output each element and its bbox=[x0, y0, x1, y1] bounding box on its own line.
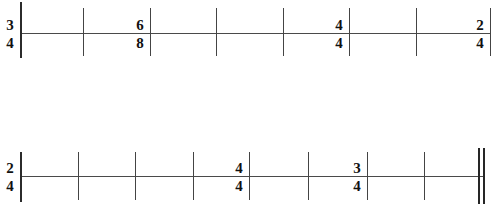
lower-barline-6 bbox=[367, 152, 368, 200]
time-signature-denominator: 4 bbox=[2, 179, 18, 194]
final-barline-thin bbox=[478, 148, 480, 204]
rhythm-worksheet-canvas: 3 4 6 8 4 4 2 4 2 4 bbox=[0, 0, 496, 215]
time-signature-numerator: 3 bbox=[349, 161, 365, 176]
lower-barline-open bbox=[20, 152, 22, 202]
lower-barline-5 bbox=[308, 152, 309, 200]
lower-barline-7 bbox=[424, 152, 425, 200]
lower-barline-2 bbox=[135, 152, 136, 200]
lower-barline-3 bbox=[193, 152, 194, 200]
lower-staff: 2 4 4 4 3 4 bbox=[0, 0, 496, 215]
time-signature-denominator: 4 bbox=[231, 179, 247, 194]
time-signature-lower-3: 3 4 bbox=[349, 161, 365, 194]
final-barline-thick bbox=[483, 148, 485, 204]
lower-staff-line bbox=[20, 176, 484, 177]
time-signature-numerator: 4 bbox=[231, 161, 247, 176]
time-signature-lower-1: 2 4 bbox=[2, 161, 18, 194]
time-signature-lower-2: 4 4 bbox=[231, 161, 247, 194]
lower-barline-4 bbox=[249, 152, 250, 200]
time-signature-numerator: 2 bbox=[2, 161, 18, 176]
lower-barline-1 bbox=[78, 152, 79, 200]
time-signature-denominator: 4 bbox=[349, 179, 365, 194]
